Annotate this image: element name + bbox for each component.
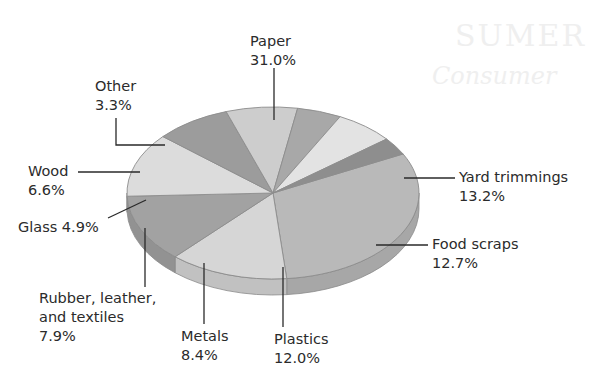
label-metals-pct: 8.4% [181, 346, 229, 365]
label-paper-pct: 31.0% [250, 51, 296, 70]
label-metals: Metals 8.4% [181, 327, 229, 365]
label-paper: Paper 31.0% [250, 32, 296, 70]
label-plastics-name: Plastics [274, 330, 328, 349]
label-glass-name: Glass 4.9% [18, 218, 99, 237]
label-rubber-name-line1: Rubber, leather, [39, 289, 156, 308]
label-wood-name: Wood [28, 162, 68, 181]
label-yard-name: Yard trimmings [459, 168, 568, 187]
label-food-pct: 12.7% [432, 254, 519, 273]
label-food-name: Food scraps [432, 235, 519, 254]
label-wood-pct: 6.6% [28, 181, 68, 200]
label-other-pct: 3.3% [95, 96, 136, 115]
label-other: Other 3.3% [95, 77, 136, 115]
label-rubber: Rubber, leather, and textiles 7.9% [39, 289, 156, 346]
pie-slices [127, 107, 419, 279]
label-paper-name: Paper [250, 32, 296, 51]
label-food-scraps: Food scraps 12.7% [432, 235, 519, 273]
label-plastics: Plastics 12.0% [274, 330, 328, 368]
label-yard-trimmings: Yard trimmings 13.2% [459, 168, 568, 206]
label-other-name: Other [95, 77, 136, 96]
label-glass: Glass 4.9% [18, 218, 99, 237]
label-plastics-pct: 12.0% [274, 349, 328, 368]
label-yard-pct: 13.2% [459, 187, 568, 206]
label-wood: Wood 6.6% [28, 162, 68, 200]
label-rubber-name-line2: and textiles [39, 308, 156, 327]
label-rubber-pct: 7.9% [39, 327, 156, 346]
label-metals-name: Metals [181, 327, 229, 346]
